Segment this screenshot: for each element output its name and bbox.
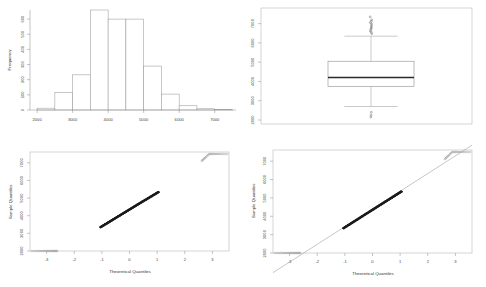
histogram-x-tick-label: 4000 xyxy=(104,117,114,122)
qq-point xyxy=(225,153,227,155)
histogram-y-tick-label: 100 xyxy=(20,91,25,99)
boxplot-outlier-point xyxy=(370,111,372,113)
qq-y-tick-label: 5000 xyxy=(19,193,24,203)
histogram-x-tick-label: 6000 xyxy=(175,117,185,122)
qq-point xyxy=(227,153,229,155)
histogram-bar xyxy=(90,10,108,110)
histogram-y-tick-label: 500 xyxy=(20,30,25,38)
qqplot-left-panel: 200030004000500060007000 -3-2-10123 Samp… xyxy=(0,144,243,287)
qqplot-left-frame xyxy=(30,152,229,251)
qqplot-right-points xyxy=(274,151,471,254)
qq-x-tick-label: 3 xyxy=(211,257,214,262)
boxplot-panel: 200030004000500060007000 xyxy=(243,0,486,144)
qqplot-left-y-axis-title: Sample Quantiles xyxy=(8,184,13,219)
qq-y-tick-label: 2000 xyxy=(19,246,24,256)
qq-y-tick-label: 3000 xyxy=(262,229,267,239)
histogram-y-tick-label: 0 xyxy=(20,108,25,111)
histogram-x-tick-label: 5000 xyxy=(139,117,149,122)
qq-x-tick-label: 2 xyxy=(184,257,187,262)
qq-y-tick-label: 6000 xyxy=(262,174,267,184)
histogram-bar xyxy=(126,19,144,110)
histogram-y-tick-label: 400 xyxy=(20,45,25,53)
qqplot-left-x-axis-title: Theoretical Quantiles xyxy=(109,269,151,274)
qq-x-tick-label: 2 xyxy=(427,259,430,264)
boxplot-y-tick-label: 4000 xyxy=(250,76,255,86)
histogram-y-axis-title: Frequency xyxy=(7,49,12,71)
qq-x-tick-label: 0 xyxy=(128,257,131,262)
boxplot-y-tick-label: 6000 xyxy=(250,38,255,48)
boxplot-y-tick-label: 3000 xyxy=(250,95,255,105)
qqplot-left-svg: 200030004000500060007000 -3-2-10123 Samp… xyxy=(0,144,243,287)
histogram-bar xyxy=(144,66,162,110)
qqplot-right-x-axis-title: Theoretical Quantiles xyxy=(352,271,394,276)
qq-y-tick-label: 4000 xyxy=(19,210,24,220)
histogram-x-ticks: 200030004000500060007000 xyxy=(33,110,220,122)
boxplot-y-tick-label: 2000 xyxy=(250,115,255,125)
boxplot-y-tick-label: 7000 xyxy=(250,18,255,28)
histogram-bar xyxy=(161,94,179,110)
boxplot-y-ticks: 200030004000500060007000 xyxy=(250,18,261,124)
qq-x-tick-label: 1 xyxy=(156,257,159,262)
qq-x-tick-label: -2 xyxy=(315,259,319,264)
histogram-y-ticks: 0100200300400500600 xyxy=(20,15,30,111)
qqplot-right-frame xyxy=(273,150,472,253)
histogram-x-tick-label: 2000 xyxy=(33,117,43,122)
histogram-bar xyxy=(55,93,73,110)
boxplot-outlier-point xyxy=(370,114,372,116)
qqplot-right-svg: 200030004000500060007000 -3-2-10123 Samp… xyxy=(243,144,486,287)
histogram-svg: 0100200300400500600 20003000400050006000… xyxy=(0,0,243,144)
qq-x-tick-label: 1 xyxy=(399,259,402,264)
histogram-y-tick-label: 200 xyxy=(20,76,25,84)
histogram-bars xyxy=(37,10,232,110)
qq-x-tick-label: -1 xyxy=(343,259,347,264)
qq-point xyxy=(468,151,470,153)
qqplot-left-points xyxy=(31,153,228,252)
qq-y-tick-label: 7000 xyxy=(262,156,267,166)
qq-point xyxy=(466,151,468,153)
qq-y-tick-label: 4000 xyxy=(262,211,267,221)
qqplot-left-x-ticks: -3-2-10123 xyxy=(45,251,215,262)
histogram-x-tick-label: 3000 xyxy=(68,117,78,122)
qq-y-tick-label: 3000 xyxy=(19,228,24,238)
boxplot-svg: 200030004000500060007000 xyxy=(243,0,486,144)
histogram-bar xyxy=(73,75,91,110)
qqplot-right-y-axis-title: Sample Quantiles xyxy=(251,183,256,218)
boxplot-outlier-point xyxy=(370,116,372,118)
qq-point xyxy=(470,151,472,153)
plot-grid: 0100200300400500600 20003000400050006000… xyxy=(0,0,486,287)
qq-x-tick-label: -2 xyxy=(72,257,76,262)
histogram-bar xyxy=(179,106,197,110)
boxplot-box xyxy=(328,61,414,86)
qq-x-tick-label: 0 xyxy=(371,259,374,264)
qq-y-tick-label: 2000 xyxy=(262,248,267,258)
qqplot-right-panel: 200030004000500060007000 -3-2-10123 Samp… xyxy=(243,144,486,287)
boxplot-geometry xyxy=(328,36,414,106)
histogram-y-tick-label: 600 xyxy=(20,15,25,23)
qqplot-right-y-ticks: 200030004000500060007000 xyxy=(262,156,273,258)
qq-y-tick-label: 7000 xyxy=(19,158,24,168)
qq-y-tick-label: 5000 xyxy=(262,193,267,203)
histogram-bar xyxy=(37,108,55,110)
qq-x-tick-label: -3 xyxy=(45,257,49,262)
histogram-bar xyxy=(108,19,126,110)
histogram-panel: 0100200300400500600 20003000400050006000… xyxy=(0,0,243,144)
boxplot-outlier-point xyxy=(369,16,371,18)
histogram-x-tick-label: 7000 xyxy=(210,117,220,122)
boxplot-y-tick-label: 5000 xyxy=(250,57,255,67)
qqplot-left-y-ticks: 200030004000500060007000 xyxy=(19,158,30,256)
histogram-y-tick-label: 300 xyxy=(20,60,25,68)
qq-x-tick-label: 3 xyxy=(454,259,457,264)
qqplot-right-x-ticks: -3-2-10123 xyxy=(288,253,458,264)
qq-y-tick-label: 6000 xyxy=(19,175,24,185)
qq-x-tick-label: -1 xyxy=(100,257,104,262)
